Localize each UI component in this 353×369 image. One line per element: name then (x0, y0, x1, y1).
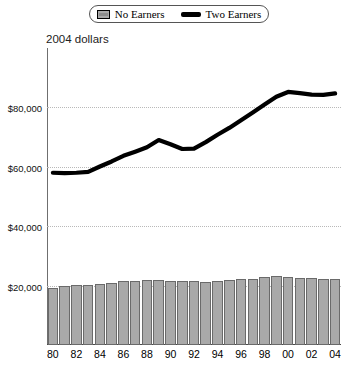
x-axis-tick-label: 90 (165, 348, 177, 360)
legend-label-no-earners: No Earners (115, 9, 165, 20)
y-axis-tick-label: $40,000 (8, 222, 42, 233)
y-axis-tick-label: $80,000 (8, 103, 42, 114)
x-axis-tick-label: 04 (329, 348, 341, 360)
y-axis-tick-label: $20,000 (8, 281, 42, 292)
legend-label-two-earners: Two Earners (206, 9, 262, 20)
x-axis-tick-label: 84 (94, 348, 106, 360)
x-axis-tick-label: 82 (71, 348, 83, 360)
bar-swatch-icon (97, 10, 110, 19)
x-axis-tick-label: 86 (118, 348, 130, 360)
line-series-two-earners (47, 48, 341, 345)
chart-figure: No Earners Two Earners 2004 dollars $20,… (0, 0, 353, 369)
x-axis-tick-label: 88 (141, 348, 153, 360)
x-axis-tick-label: 92 (188, 348, 200, 360)
x-axis-tick-label: 96 (235, 348, 247, 360)
legend-entry-two-earners: Two Earners (181, 9, 262, 20)
x-axis-tick-label: 80 (47, 348, 59, 360)
y-axis-title: 2004 dollars (46, 33, 109, 45)
chart-legend: No Earners Two Earners (89, 5, 269, 23)
plot-area: $20,000$40,000$60,000$80,000 (47, 48, 341, 345)
line-swatch-icon (181, 12, 201, 17)
x-axis-tick-label: 94 (212, 348, 224, 360)
y-axis-tick-label: $60,000 (8, 162, 42, 173)
x-axis-tick-labels: 80828486889092949698000204 (47, 348, 341, 364)
x-axis-tick-label: 00 (282, 348, 294, 360)
legend-entry-no-earners: No Earners (97, 9, 165, 20)
x-axis-tick-label: 02 (306, 348, 318, 360)
x-axis-tick-label: 98 (259, 348, 271, 360)
